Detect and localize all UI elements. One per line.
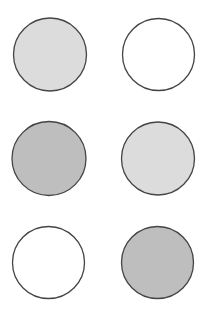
circle-row2-col2 [122, 122, 195, 195]
circle-row2-col1 [12, 122, 86, 196]
circle-row3-col1 [13, 227, 85, 299]
circle-row1-col2 [123, 19, 195, 91]
circle-grid [0, 0, 207, 319]
circle-row3-col2 [122, 227, 194, 299]
circle-row1-col1 [14, 18, 87, 91]
diagram-canvas [0, 0, 207, 319]
